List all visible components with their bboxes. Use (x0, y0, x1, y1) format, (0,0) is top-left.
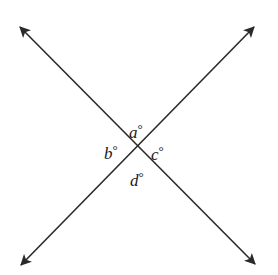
intersecting-lines-diagram: a° b° c° d° (0, 0, 278, 275)
angle-label-b: b° (104, 142, 118, 163)
angle-label-a: a° (129, 121, 143, 142)
angle-label-d: d° (130, 169, 144, 190)
angle-label-c: c° (151, 143, 164, 164)
